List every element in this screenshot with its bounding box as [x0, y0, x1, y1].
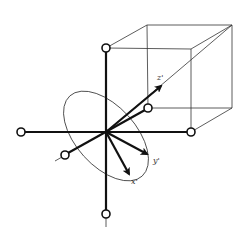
diagram-canvas: z' y' x': [0, 0, 244, 239]
x-prime-label: x': [131, 177, 138, 186]
y-prime-label: y': [152, 156, 160, 165]
z-prime-label: z': [156, 73, 163, 82]
coordinate-diagram: z' y' x': [0, 0, 244, 239]
z-prime-arrow: [106, 86, 161, 132]
circle-bottom: [102, 210, 110, 218]
circle-back: [144, 104, 152, 112]
circle-top: [102, 44, 110, 52]
circle-front: [61, 151, 69, 159]
circle-right: [187, 128, 195, 136]
circle-left: [17, 128, 25, 136]
